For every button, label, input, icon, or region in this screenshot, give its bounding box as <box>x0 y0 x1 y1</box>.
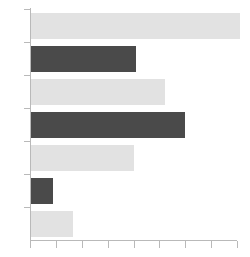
bar-1 <box>30 13 240 39</box>
bar-5 <box>30 145 134 171</box>
bars-group <box>30 13 240 237</box>
y-axis <box>24 8 31 240</box>
bar-chart <box>0 0 250 257</box>
bar-7 <box>30 211 73 237</box>
bar-6 <box>30 178 53 204</box>
bar-4 <box>30 112 185 138</box>
bar-3 <box>30 79 165 105</box>
chart-canvas <box>0 0 250 257</box>
x-axis <box>30 241 238 248</box>
bar-2 <box>30 46 136 72</box>
